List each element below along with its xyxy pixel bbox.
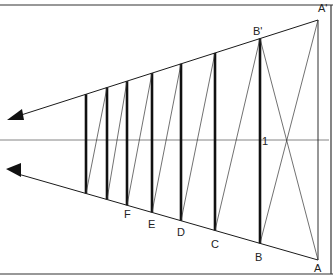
upper-arrow-icon (7, 109, 24, 120)
diagonal-bprime-a (260, 39, 318, 260)
label-a-prime: A' (318, 2, 327, 14)
diagonal-line (86, 88, 107, 194)
posts-group (86, 39, 260, 244)
label-horizon-1: 1 (262, 135, 268, 147)
diagonal-line (181, 53, 215, 221)
lower-rail (18, 174, 318, 260)
diagonal-line (152, 64, 181, 213)
lower-arrow-icon (6, 163, 21, 177)
label-c: C (211, 238, 219, 250)
label-d: D (177, 226, 185, 238)
label-b-prime: B' (253, 25, 262, 37)
label-f: F (124, 208, 131, 220)
label-a: A (314, 262, 322, 274)
diagonal-aprime-b (260, 20, 318, 243)
diagonal-line (127, 73, 152, 205)
upper-rail (18, 20, 318, 116)
label-b: B (255, 251, 262, 263)
diagonal-line (215, 39, 260, 231)
label-e: E (148, 218, 155, 230)
perspective-diagram: A' B' 1 F E D C B A (0, 0, 335, 279)
